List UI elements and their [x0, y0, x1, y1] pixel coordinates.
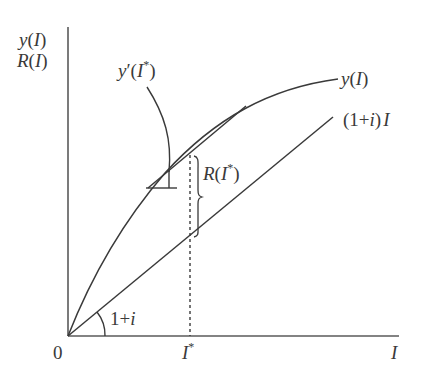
derivative-pointer — [147, 87, 170, 172]
derivative-label: y′(I*) — [116, 58, 156, 82]
r-star-brace — [194, 156, 202, 237]
i-star-label: I* — [181, 340, 194, 363]
line-label: (1+i)I — [343, 109, 391, 131]
curve-y-of-I — [68, 79, 338, 336]
x-axis-label: I — [390, 342, 399, 363]
line-1-plus-i-I — [68, 117, 333, 336]
curve-label: y(I) — [339, 68, 368, 90]
angle-label: 1+i — [110, 308, 136, 329]
origin-label: 0 — [53, 342, 63, 363]
r-star-label: R(I*) — [202, 161, 240, 185]
y-axis-label-r: R(I) — [16, 50, 48, 72]
y-axis-label-y: y(I) — [17, 29, 46, 51]
angle-arc — [97, 312, 105, 336]
production-diagram: y(I) R(I) 0 I* I (1+i)I y(I) y′(I*) R(I*… — [0, 0, 421, 366]
